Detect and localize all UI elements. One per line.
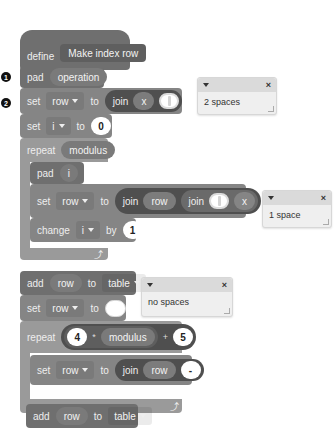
row-param[interactable]: row xyxy=(50,274,82,292)
row-variable-dropdown[interactable]: row xyxy=(46,92,84,110)
join-reporter-outer[interactable]: join row join x xyxy=(115,188,261,214)
set-keyword: set xyxy=(37,365,50,376)
row-param[interactable]: row xyxy=(143,192,175,210)
operation-param[interactable]: operation xyxy=(50,68,108,86)
value-input[interactable]: 0 xyxy=(91,117,111,135)
plus-operator: + xyxy=(163,332,168,342)
loop-arrow-icon: ⤴ xyxy=(94,248,103,261)
row-param[interactable]: row xyxy=(143,361,175,379)
modulus-param[interactable]: modulus xyxy=(101,328,155,346)
set-row-block-4[interactable]: set row to join row - xyxy=(30,355,192,385)
dropdown-arrow-icon xyxy=(134,281,140,285)
to-keyword: to xyxy=(100,365,108,376)
comment-titlebar[interactable]: × xyxy=(198,78,276,92)
loop-arrow-icon: ⤴ xyxy=(170,400,179,413)
set-keyword: set xyxy=(37,196,50,207)
join-reporter[interactable]: join x xyxy=(105,90,183,112)
define-keyword: define xyxy=(27,51,54,62)
multiply-operator: * xyxy=(92,332,96,342)
join-keyword: join xyxy=(189,196,205,207)
dropdown-arrow-icon xyxy=(140,414,146,418)
comment-text[interactable]: 1 space xyxy=(263,205,331,225)
join-reporter-inner[interactable]: join x xyxy=(181,190,259,212)
repeat-arm xyxy=(20,162,30,248)
set-keyword: set xyxy=(27,121,40,132)
pad-keyword: pad xyxy=(27,72,44,83)
text-input-slot[interactable] xyxy=(159,93,179,109)
table-list-dropdown[interactable]: table xyxy=(102,274,146,292)
collapse-icon[interactable] xyxy=(203,83,209,87)
dash-input[interactable]: - xyxy=(181,361,201,379)
comment-titlebar[interactable]: × xyxy=(142,278,232,292)
empty-text-input[interactable] xyxy=(105,300,126,317)
join-keyword: join xyxy=(123,196,139,207)
collapse-icon[interactable] xyxy=(147,283,153,287)
to-keyword: to xyxy=(90,96,98,107)
join-keyword: join xyxy=(123,365,139,376)
comment-text[interactable]: no spaces xyxy=(142,292,232,312)
set-keyword: set xyxy=(27,96,40,107)
resize-handle-icon[interactable] xyxy=(224,308,230,314)
dropdown-arrow-icon xyxy=(82,199,88,203)
define-block[interactable]: define Make index row xyxy=(20,30,130,70)
modulus-param[interactable]: modulus xyxy=(61,141,115,159)
set-row-block-2[interactable]: set row to join row join x xyxy=(30,184,246,218)
x-param[interactable]: x xyxy=(133,92,154,110)
by-keyword: by xyxy=(106,225,117,236)
repeat-arm xyxy=(20,353,30,399)
i-param[interactable]: i xyxy=(60,164,78,182)
change-i-block[interactable]: change i by 1 xyxy=(30,218,136,242)
pad-i-block[interactable]: pad i xyxy=(30,162,84,184)
step-marker-2: 2 xyxy=(1,98,11,108)
plus-reporter[interactable]: 4 * modulus + 5 xyxy=(61,324,196,350)
pad-keyword: pad xyxy=(37,168,54,179)
to-keyword: to xyxy=(94,411,102,422)
to-keyword: to xyxy=(77,121,85,132)
to-keyword: to xyxy=(88,278,96,289)
i-variable-dropdown[interactable]: i xyxy=(76,221,100,239)
repeat-header: repeat modulus xyxy=(20,138,108,162)
i-variable-dropdown[interactable]: i xyxy=(46,117,70,135)
pad-operation-block[interactable]: pad operation xyxy=(20,66,104,88)
set-row-block-3[interactable]: set row to xyxy=(20,295,126,321)
set-row-block-1[interactable]: set row to join x xyxy=(20,88,182,114)
dropdown-arrow-icon xyxy=(59,124,65,128)
to-keyword: to xyxy=(90,303,98,314)
addend-input[interactable]: 5 xyxy=(173,328,193,346)
comment-no-spaces[interactable]: × no spaces xyxy=(141,277,233,317)
close-icon[interactable]: × xyxy=(321,193,326,203)
step-marker-1: 1 xyxy=(1,72,11,82)
comment-text[interactable]: 2 spaces xyxy=(198,92,276,112)
add-row-block-1[interactable]: add row to table xyxy=(20,271,136,295)
comment-titlebar[interactable]: × xyxy=(263,191,331,205)
repeat-header: repeat 4 * modulus + 5 xyxy=(20,321,182,353)
add-row-block-2[interactable]: add row to table xyxy=(26,404,138,428)
set-i-block[interactable]: set i to 0 xyxy=(20,114,112,138)
resize-handle-icon[interactable] xyxy=(323,219,329,225)
multiply-reporter[interactable]: 4 * modulus xyxy=(64,326,157,348)
join-reporter[interactable]: join row - xyxy=(115,359,204,381)
repeat-keyword: repeat xyxy=(27,332,55,343)
to-keyword: to xyxy=(100,196,108,207)
row-param[interactable]: row xyxy=(56,407,88,425)
comment-2-spaces[interactable]: × 2 spaces xyxy=(197,77,277,115)
change-keyword: change xyxy=(37,225,70,236)
dropdown-arrow-icon xyxy=(72,306,78,310)
custom-block-name[interactable]: Make index row xyxy=(60,44,146,62)
value-input[interactable]: 1 xyxy=(123,221,143,239)
table-list-dropdown[interactable]: table xyxy=(108,407,152,425)
close-icon[interactable]: × xyxy=(266,80,271,90)
add-keyword: add xyxy=(27,278,44,289)
multiplier-input[interactable]: 4 xyxy=(67,328,87,346)
set-keyword: set xyxy=(27,303,40,314)
close-icon[interactable]: × xyxy=(222,280,227,290)
row-variable-dropdown[interactable]: row xyxy=(56,361,94,379)
repeat-keyword: repeat xyxy=(27,145,55,156)
x-param[interactable]: x xyxy=(234,192,255,210)
row-variable-dropdown[interactable]: row xyxy=(56,192,94,210)
collapse-icon[interactable] xyxy=(268,196,274,200)
text-input-slot[interactable] xyxy=(209,193,229,209)
row-variable-dropdown[interactable]: row xyxy=(46,299,84,317)
resize-handle-icon[interactable] xyxy=(268,106,274,112)
comment-1-space[interactable]: × 1 space xyxy=(262,190,332,228)
